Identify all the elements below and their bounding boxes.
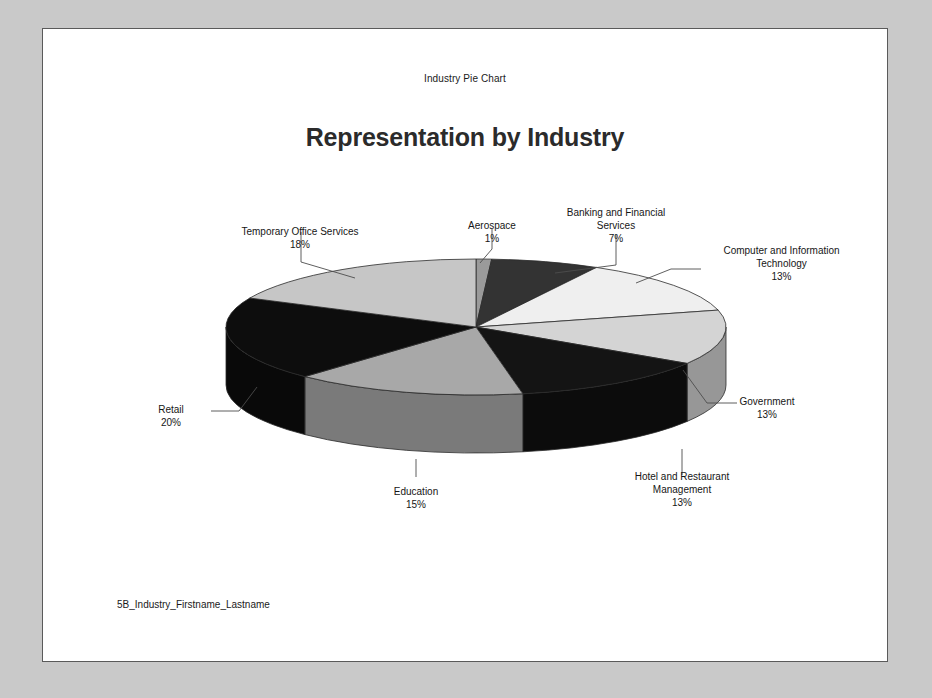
pie-label-computer-and-information-technology: Computer and Information Technology 13% <box>674 244 888 283</box>
pie-label-hotel-pct: 13% <box>592 496 772 509</box>
pie-label-education-text: Education <box>394 486 438 497</box>
pie-label-retail-text: Retail <box>158 404 184 415</box>
pie-label-hotel-line1: Hotel and Restaurant <box>635 471 730 482</box>
pie-label-retail-pct: 20% <box>131 416 211 429</box>
pie-label-government: Government 13% <box>697 395 837 421</box>
pie-label-banking-and-financial-services: Banking and Financial Services 7% <box>526 206 706 245</box>
document-page: Industry Pie Chart Representation by Ind… <box>42 28 888 662</box>
pie-chart-svg <box>43 29 888 662</box>
pie-label-computer-line2: Technology <box>674 257 888 270</box>
pie-label-hotel-and-restaurant-management: Hotel and Restaurant Management 13% <box>592 470 772 509</box>
pie-label-government-text: Government <box>739 396 794 407</box>
pie-label-education: Education 15% <box>346 485 486 511</box>
pie-label-temporary-office-services-text: Temporary Office Services <box>241 226 358 237</box>
pie-label-temporary-office-services: Temporary Office Services 18% <box>180 225 420 251</box>
pie-slices-top <box>226 259 726 395</box>
pie-label-retail: Retail 20% <box>131 403 211 429</box>
pie-label-hotel-line2: Management <box>592 483 772 496</box>
pie-label-banking-line1: Banking and Financial <box>567 207 665 218</box>
document-footer-text: 5B_Industry_Firstname_Lastname <box>117 599 270 610</box>
pie-label-aerospace-text: Aerospace <box>468 220 516 231</box>
pie-label-education-pct: 15% <box>346 498 486 511</box>
pie-label-government-pct: 13% <box>697 408 837 421</box>
pie-label-temporary-office-services-pct: 18% <box>180 238 420 251</box>
pie-chart: Temporary Office Services 18% Aerospace … <box>43 29 888 662</box>
pie-label-banking-line2: Services <box>526 219 706 232</box>
pie-label-computer-pct: 13% <box>674 270 888 283</box>
pie-label-computer-line1: Computer and Information <box>723 245 839 256</box>
